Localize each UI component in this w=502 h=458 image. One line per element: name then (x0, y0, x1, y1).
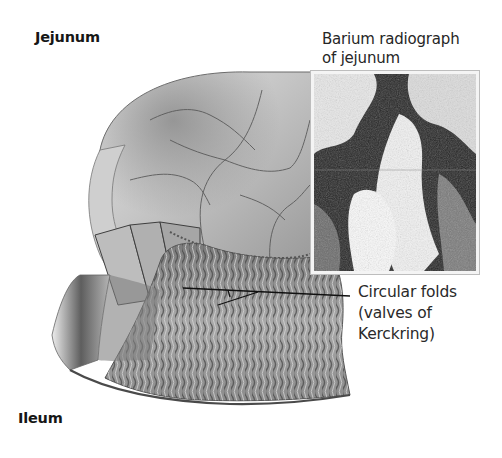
callout-circular-folds-line-2: (valves of (358, 303, 432, 324)
section-title-ileum: Ileum (18, 410, 63, 426)
callout-circular-folds-line-3: Kerckring) (358, 324, 435, 345)
callout-circular-folds-line-1: Circular folds (358, 282, 457, 303)
barium-radiograph-inset (311, 71, 479, 274)
